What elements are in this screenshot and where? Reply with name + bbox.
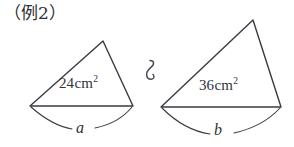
left-area-unit: cm: [75, 75, 93, 91]
left-base-arc-left-segment: [31, 107, 72, 129]
right-base-arc-right-segment: [234, 108, 280, 133]
right-area-unit: cm: [215, 77, 233, 93]
right-triangle-shape: [161, 20, 281, 107]
right-base-arc-left-segment: [162, 108, 210, 134]
right-area-exponent: 2: [233, 76, 238, 86]
right-triangle-base-label: b: [214, 122, 222, 138]
similar-to-symbol: [139, 57, 161, 83]
left-base-arc-right-segment: [95, 107, 132, 128]
right-area-value: 36: [199, 77, 214, 93]
right-triangle-area-label: 36cm2: [199, 78, 238, 93]
left-triangle-area-label: 24cm2: [59, 76, 98, 91]
left-triangle-base-label: a: [76, 120, 84, 136]
left-triangle-shape: [30, 41, 133, 106]
example-figure: （例2） 24cm2 36cm2 a b: [0, 0, 294, 147]
left-area-value: 24: [59, 75, 74, 91]
left-area-exponent: 2: [93, 74, 98, 84]
